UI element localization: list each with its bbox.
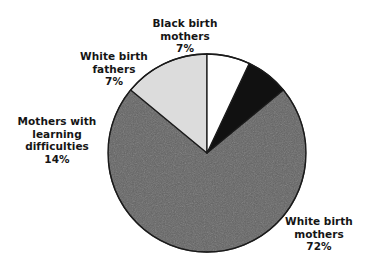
slice-label-white-birth-fathers-percent: 7% xyxy=(62,75,166,87)
slice-label-white-birth-mothers: White birth mothers 72% xyxy=(268,203,370,265)
slice-label-white-birth-fathers-text: White birth fathers xyxy=(80,50,148,74)
slice-label-mothers-with-learning-difficulties: Mothers with learning difficulties 14% xyxy=(2,103,112,177)
slice-label-mothers-with-learning-difficulties-percent: 14% xyxy=(2,153,112,165)
slice-label-white-birth-mothers-percent: 72% xyxy=(268,240,370,252)
slice-label-white-birth-mothers-text: White birth mothers xyxy=(285,215,353,239)
slice-label-mothers-with-learning-difficulties-text: Mothers with learning difficulties xyxy=(18,115,97,152)
slice-label-white-birth-fathers: White birth fathers 7% xyxy=(62,38,166,100)
pie-chart-figure: Black birth mothers 7% White birth fathe… xyxy=(0,0,373,266)
